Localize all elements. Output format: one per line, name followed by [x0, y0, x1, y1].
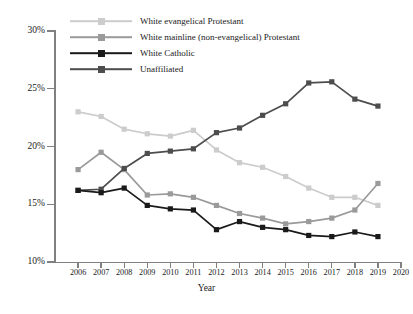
- y-tick-label: 15%: [2, 199, 45, 209]
- data-point: [306, 80, 311, 85]
- data-point: [145, 151, 150, 156]
- y-tick-label: 20%: [2, 142, 45, 152]
- data-point: [306, 219, 311, 224]
- data-point: [99, 190, 104, 195]
- data-point: [352, 195, 357, 200]
- y-tick-label: 10%: [2, 257, 45, 267]
- data-point: [283, 221, 288, 226]
- data-point: [75, 109, 80, 114]
- data-point: [237, 219, 242, 224]
- data-point: [168, 206, 173, 211]
- series-line: [78, 112, 378, 206]
- data-point: [329, 216, 334, 221]
- y-tick: [47, 88, 54, 89]
- data-point: [191, 128, 196, 133]
- data-point: [352, 207, 357, 212]
- data-point: [191, 146, 196, 151]
- data-point: [145, 131, 150, 136]
- data-point: [237, 125, 242, 130]
- data-point: [99, 150, 104, 155]
- y-tick-label: 30%: [2, 26, 45, 36]
- series-0: [75, 109, 380, 208]
- data-point: [214, 227, 219, 232]
- data-point: [260, 225, 265, 230]
- data-point: [352, 97, 357, 102]
- data-point: [375, 181, 380, 186]
- series-line: [78, 82, 378, 191]
- data-point: [214, 203, 219, 208]
- data-point: [145, 203, 150, 208]
- y-tick-label: 25%: [2, 84, 45, 94]
- plot-area: [55, 31, 401, 262]
- data-point: [329, 234, 334, 239]
- y-tick: [47, 146, 54, 147]
- data-point: [260, 113, 265, 118]
- data-point: [75, 167, 80, 172]
- y-tick: [47, 30, 54, 31]
- x-axis-title: Year: [0, 283, 413, 293]
- data-point: [260, 165, 265, 170]
- data-point: [375, 234, 380, 239]
- data-point: [237, 211, 242, 216]
- data-point: [168, 191, 173, 196]
- data-point: [191, 207, 196, 212]
- data-point: [214, 147, 219, 152]
- data-point: [283, 101, 288, 106]
- y-tick: [47, 204, 54, 205]
- series-2: [75, 185, 380, 239]
- data-point: [99, 114, 104, 119]
- line-chart: White evangelical Protestant White mainl…: [0, 0, 413, 314]
- data-point: [145, 192, 150, 197]
- data-point: [306, 233, 311, 238]
- data-point: [122, 185, 127, 190]
- data-point: [237, 160, 242, 165]
- legend-swatch-evangelical: [70, 15, 132, 27]
- data-point: [122, 127, 127, 132]
- x-tick-label: 2020: [386, 269, 413, 277]
- data-point: [75, 188, 80, 193]
- data-point: [375, 103, 380, 108]
- y-tick: [47, 261, 54, 262]
- legend-label: White evangelical Protestant: [140, 16, 243, 26]
- series-3: [75, 79, 380, 193]
- data-point: [191, 195, 196, 200]
- data-point: [329, 79, 334, 84]
- data-point: [375, 203, 380, 208]
- legend-item[interactable]: White evangelical Protestant: [70, 14, 300, 28]
- data-point: [168, 134, 173, 139]
- data-point: [283, 174, 288, 179]
- data-point: [214, 130, 219, 135]
- legend-marker: [98, 18, 105, 25]
- data-point: [122, 166, 127, 171]
- data-point: [329, 195, 334, 200]
- data-point: [260, 216, 265, 221]
- data-point: [168, 149, 173, 154]
- data-point: [352, 229, 357, 234]
- data-point: [283, 227, 288, 232]
- data-point: [306, 185, 311, 190]
- series-container: [55, 31, 401, 262]
